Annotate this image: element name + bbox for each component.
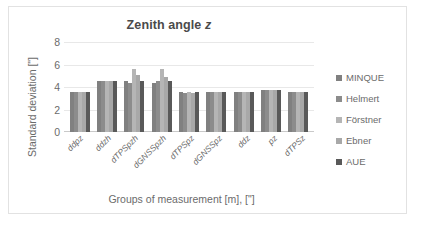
bar <box>250 92 254 133</box>
bar-group <box>175 42 202 132</box>
y-tick-label: 6 <box>54 59 60 71</box>
bar <box>113 81 117 132</box>
y-tick-label: 0 <box>54 126 60 138</box>
bar-group <box>148 42 175 132</box>
legend-label: MINQUE <box>346 72 384 83</box>
legend-label: Helmert <box>346 93 379 104</box>
legend-label: Förstner <box>346 114 381 125</box>
legend: MINQUEHelmertFörstnerEbnerAUE <box>336 67 406 172</box>
chart-frame: Zenith angle z Standard deviation ["] 02… <box>8 6 407 214</box>
bar-group <box>230 42 257 132</box>
bar-groups <box>64 42 314 132</box>
chart-title: Zenith angle z <box>9 18 329 32</box>
bar-group <box>257 42 284 132</box>
legend-label: AUE <box>346 156 366 167</box>
bar <box>140 81 144 132</box>
x-axis-ticks: ddpzddzhdTPSpzhdGNSSpzhdTPSpzdGNSSpzddzp… <box>64 133 314 177</box>
chart-title-text: Zenith angle <box>127 18 202 32</box>
legend-swatch-icon <box>336 96 342 102</box>
legend-swatch-icon <box>336 75 342 81</box>
legend-item[interactable]: AUE <box>336 151 406 172</box>
bar <box>304 92 308 133</box>
legend-label: Ebner <box>346 135 371 146</box>
bar <box>168 81 172 132</box>
bar <box>86 92 90 133</box>
bar-group <box>285 42 312 132</box>
chart-title-symbol: z <box>205 18 211 32</box>
y-tick-label: 2 <box>54 104 60 116</box>
y-tick-label: 8 <box>54 36 60 48</box>
y-axis-title: Standard deviation ["] <box>26 32 38 182</box>
legend-item[interactable]: Ebner <box>336 130 406 151</box>
legend-swatch-icon <box>336 138 342 144</box>
legend-swatch-icon <box>336 117 342 123</box>
legend-item[interactable]: Förstner <box>336 109 406 130</box>
bar <box>195 92 199 133</box>
plot-area: 02468 <box>64 42 314 132</box>
bar-group <box>93 42 120 132</box>
legend-swatch-icon <box>336 159 342 165</box>
bar <box>222 92 226 133</box>
y-tick-label: 4 <box>54 81 60 93</box>
legend-item[interactable]: Helmert <box>336 88 406 109</box>
bar-group <box>66 42 93 132</box>
bar <box>277 90 281 132</box>
legend-item[interactable]: MINQUE <box>336 67 406 88</box>
x-axis-title: Groups of measurement [m], ["] <box>44 193 319 205</box>
bar-group <box>203 42 230 132</box>
bar-group <box>121 42 148 132</box>
